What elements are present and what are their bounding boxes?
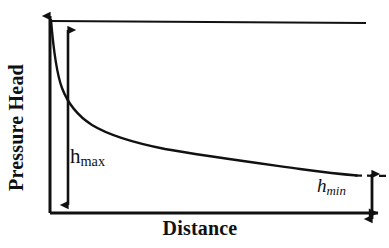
hmin-symbol: h xyxy=(317,175,327,196)
hmin-annotation: hmin xyxy=(317,176,346,198)
hmax-subscript: max xyxy=(81,153,106,169)
hmax-annotation: hmax xyxy=(70,146,105,168)
y-axis-title: Pressure Head xyxy=(5,48,28,208)
figure-canvas xyxy=(0,0,389,248)
hmin-subscript: min xyxy=(327,183,346,198)
x-axis-title: Distance xyxy=(130,217,270,240)
pressure-head-distance-figure: Pressure Head Distance hmax hmin xyxy=(0,0,389,248)
reference-head-line xyxy=(50,21,366,23)
hmax-symbol: h xyxy=(70,144,81,168)
